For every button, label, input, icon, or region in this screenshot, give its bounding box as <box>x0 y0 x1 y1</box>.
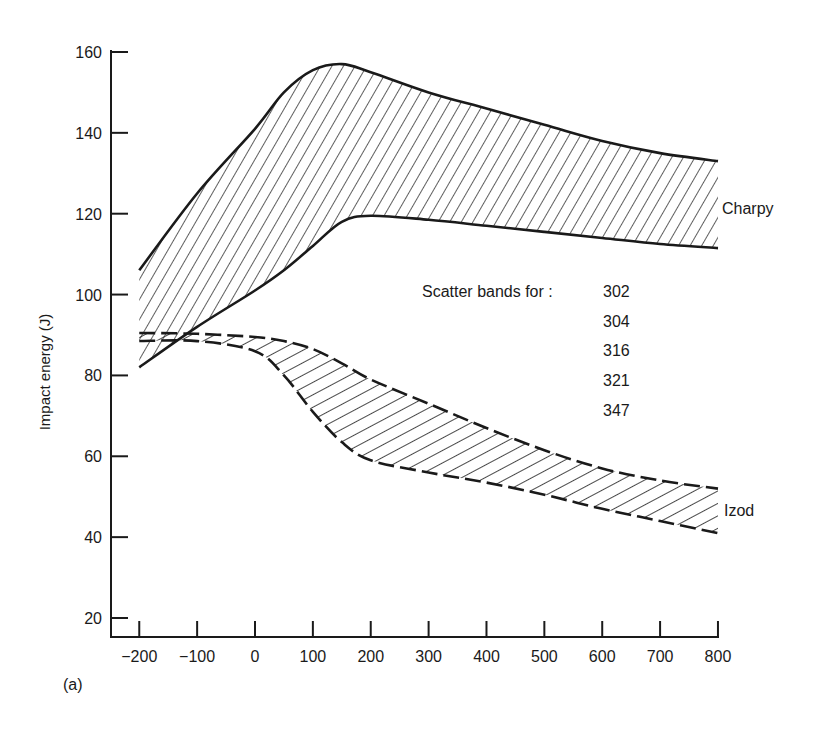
x-tick-label: 100 <box>300 648 327 665</box>
band-fill-izod <box>139 333 718 533</box>
y-tick-label: 120 <box>75 206 102 223</box>
legend-items: 302304316321347 <box>603 283 630 419</box>
y-axis-title: Impact energy (J) <box>36 314 53 431</box>
y-tick-label: 140 <box>75 125 102 142</box>
charpy-label: Charpy <box>722 200 774 217</box>
x-tick-label: 500 <box>531 648 558 665</box>
panel-label: (a) <box>63 676 83 694</box>
izod-label: Izod <box>724 502 754 519</box>
legend-item: 316 <box>603 342 630 359</box>
x-tick-label: 300 <box>415 648 442 665</box>
x-tick-label: −100 <box>179 648 215 665</box>
legend-item: 304 <box>603 313 630 330</box>
x-tick-label: 400 <box>473 648 500 665</box>
band-fill-charpy <box>139 64 718 367</box>
band-izod <box>139 333 718 533</box>
legend-item: 321 <box>603 372 630 389</box>
x-tick-label: 600 <box>589 648 616 665</box>
x-tick-label: 800 <box>705 648 732 665</box>
y-tick-label: 20 <box>84 610 102 627</box>
x-tick-label: 200 <box>357 648 384 665</box>
x-tick-label: 0 <box>251 648 260 665</box>
band-charpy <box>139 64 718 367</box>
y-tick-label: 60 <box>84 448 102 465</box>
y-tick-label: 100 <box>75 287 102 304</box>
legend-title: Scatter bands for : <box>422 283 553 300</box>
x-tick-label: 700 <box>647 648 674 665</box>
legend-item: 302 <box>603 283 630 300</box>
impact-energy-chart: 20406080100120140160−200−100010020030040… <box>0 0 820 734</box>
x-tick-label: −200 <box>121 648 157 665</box>
legend-item: 347 <box>603 402 630 419</box>
y-tick-label: 80 <box>84 367 102 384</box>
y-tick-label: 160 <box>75 44 102 61</box>
y-tick-label: 40 <box>84 529 102 546</box>
